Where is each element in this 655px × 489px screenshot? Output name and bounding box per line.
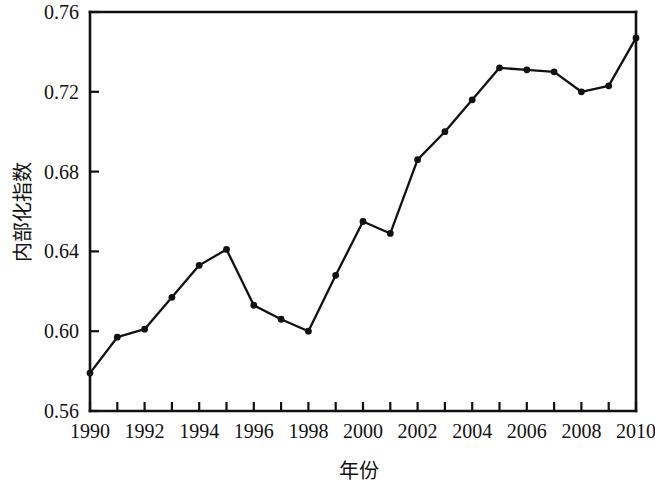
data-point-marker — [469, 96, 476, 103]
y-axis-title: 内部化指数 — [12, 162, 34, 262]
data-point-marker — [223, 246, 230, 253]
x-tick-label: 2010 — [616, 420, 655, 442]
y-tick-label: 0.68 — [44, 161, 79, 183]
data-point-marker — [169, 294, 176, 301]
x-tick-label: 1998 — [288, 420, 328, 442]
data-point-marker — [278, 316, 285, 323]
x-tick-label: 2008 — [561, 420, 601, 442]
data-point-marker — [578, 88, 585, 95]
data-point-marker — [551, 68, 558, 75]
x-tick-label: 1996 — [234, 420, 274, 442]
data-point-marker — [87, 370, 94, 377]
y-tick-label: 0.64 — [44, 240, 79, 262]
data-point-marker — [196, 262, 203, 269]
data-point-marker — [332, 272, 339, 279]
x-tick-label: 2004 — [452, 420, 492, 442]
data-point-marker — [305, 328, 312, 335]
data-point-marker — [414, 156, 421, 163]
x-axis-tick-labels: 1990199219941996199820002002200420062008… — [70, 420, 655, 442]
data-point-marker — [523, 66, 530, 73]
data-point-marker — [605, 82, 612, 89]
x-axis-ticks — [90, 402, 636, 411]
y-tick-label: 0.76 — [44, 1, 79, 23]
x-tick-label: 1992 — [125, 420, 165, 442]
x-axis-title: 年份 — [339, 460, 379, 482]
line-chart-figure: 0.560.600.640.680.720.76 199019921994199… — [0, 0, 655, 489]
y-tick-label: 0.56 — [44, 400, 79, 422]
y-tick-label: 0.72 — [44, 81, 79, 103]
x-tick-label: 2002 — [398, 420, 438, 442]
x-tick-label: 2000 — [343, 420, 383, 442]
x-tick-label: 1990 — [70, 420, 110, 442]
data-point-marker — [442, 128, 449, 135]
data-point-marker — [250, 302, 257, 309]
data-point-marker — [387, 230, 394, 237]
data-point-marker — [114, 334, 121, 341]
data-point-marker — [633, 35, 640, 42]
x-tick-label: 1994 — [179, 420, 219, 442]
chart-canvas: 0.560.600.640.680.720.76 199019921994199… — [0, 0, 655, 489]
x-tick-label: 2006 — [507, 420, 547, 442]
data-point-marker — [496, 64, 503, 71]
data-point-marker — [360, 218, 367, 225]
data-point-marker — [141, 326, 148, 333]
y-tick-label: 0.60 — [44, 320, 79, 342]
